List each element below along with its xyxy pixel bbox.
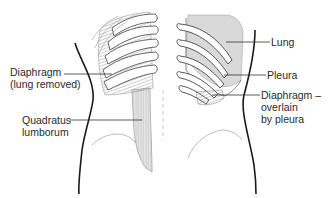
anatomy-diagram: Diaphragm (lung removed) Quadratus lumbo… — [0, 0, 328, 198]
label-quadratus-line2: lumborum — [22, 126, 71, 138]
label-diaphragm-left-line1: Diaphragm — [10, 66, 81, 78]
label-diaphragm-right-line2: overlain — [261, 101, 321, 113]
body-outline-right — [243, 30, 256, 194]
label-diaphragm-right-line3: by pleura — [261, 113, 321, 125]
label-pleura-text: Pleura — [267, 69, 297, 81]
costal-arch-right — [188, 130, 242, 158]
label-lung: Lung — [271, 36, 294, 48]
costal-arch-left — [92, 134, 135, 145]
label-lung-text: Lung — [271, 36, 294, 48]
quadratus-lumborum-fill — [132, 88, 152, 172]
label-diaphragm-left-line2: (lung removed) — [10, 78, 81, 90]
label-diaphragm-overlain-by-pleura: Diaphragm – overlain by pleura — [261, 89, 321, 125]
label-quadratus-line1: Quadratus — [22, 114, 71, 126]
label-pleura: Pleura — [267, 69, 297, 81]
label-diaphragm-lung-removed: Diaphragm (lung removed) — [10, 66, 81, 90]
diaphragm-right-muscle — [196, 90, 224, 105]
label-diaphragm-right-line1: Diaphragm – — [261, 89, 321, 101]
label-quadratus-lumborum: Quadratus lumborum — [22, 114, 71, 138]
